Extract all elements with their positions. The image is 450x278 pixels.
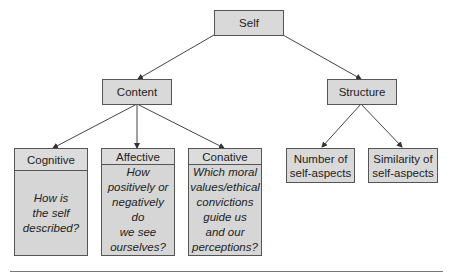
similarity-of-self-aspects-label: Similarity of self-aspects <box>372 152 433 180</box>
affective-title: Affective <box>102 149 174 165</box>
conative-title: Conative <box>189 149 261 165</box>
structure-node: Structure <box>327 79 397 105</box>
conative-question: Which moral values/ethical convictions g… <box>189 165 261 255</box>
number-of-self-aspects-label: Number of self-aspects <box>290 152 351 180</box>
structure-label: Structure <box>339 85 386 99</box>
affective-question: How positively or negatively do we see o… <box>102 165 174 255</box>
similarity-of-self-aspects-node: Similarity of self-aspects <box>368 148 438 183</box>
affective-card: Affective How positively or negatively d… <box>101 148 175 256</box>
self-node: Self <box>214 10 284 36</box>
self-label: Self <box>239 16 259 30</box>
cognitive-card: Cognitive How is the self described? <box>14 148 88 256</box>
content-label: Content <box>117 85 157 99</box>
conative-card: Conative Which moral values/ethical conv… <box>188 148 262 256</box>
cognitive-question: How is the self described? <box>15 171 87 255</box>
bottom-rule <box>10 271 443 272</box>
content-node: Content <box>102 79 172 105</box>
cognitive-title: Cognitive <box>15 149 87 171</box>
number-of-self-aspects-node: Number of self-aspects <box>286 148 355 183</box>
